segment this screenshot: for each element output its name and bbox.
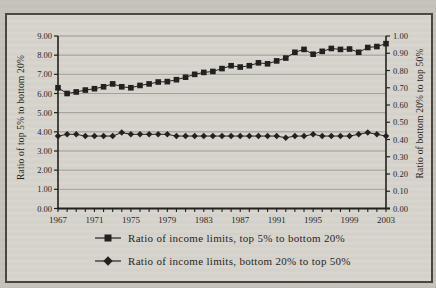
- data-point-diamond: [319, 133, 326, 140]
- data-point-diamond: [264, 133, 271, 140]
- data-point-square: [146, 81, 152, 87]
- right-axis-tick-label: 0.60: [393, 100, 408, 110]
- data-point-diamond: [191, 133, 198, 140]
- x-axis-tick-label: 2003: [377, 215, 396, 225]
- data-point-diamond: [292, 133, 299, 140]
- data-point-square: [329, 46, 335, 52]
- x-axis-tick-label: 1991: [268, 215, 286, 225]
- left-axis-tick-label: 1.00: [37, 184, 52, 194]
- right-axis-title: Ratio of bottom 20% to top 50%: [414, 29, 427, 199]
- data-point-diamond: [228, 133, 235, 140]
- right-axis-tick-label: 0.90: [393, 48, 408, 58]
- data-point-square: [137, 83, 143, 89]
- legend-label: Ratio of income limits, bottom 20% to to…: [128, 255, 351, 267]
- chart-frame: 9.008.007.006.005.004.003.002.001.000.00…: [5, 13, 433, 283]
- data-point-square: [228, 63, 234, 69]
- data-point-square: [219, 66, 225, 72]
- data-point-square: [247, 63, 253, 69]
- data-point-diamond: [237, 133, 244, 140]
- left-axis-tick-label: 2.00: [37, 165, 52, 175]
- data-point-diamond: [91, 133, 98, 140]
- data-point-square: [92, 86, 98, 92]
- x-axis-tick-label: 1971: [85, 215, 103, 225]
- data-point-square: [283, 55, 289, 61]
- data-point-diamond: [173, 133, 180, 140]
- data-point-square: [192, 72, 198, 78]
- x-axis-tick-label: 1999: [341, 215, 360, 225]
- data-point-diamond: [301, 133, 308, 140]
- legend-label: Ratio of income limits, top 5% to bottom…: [128, 232, 345, 244]
- data-point-square: [119, 84, 125, 90]
- data-point-square: [310, 51, 316, 57]
- data-point-diamond: [346, 133, 353, 140]
- data-point-diamond: [182, 133, 189, 140]
- x-axis-tick-label: 1995: [304, 215, 323, 225]
- data-point-square: [64, 91, 70, 97]
- left-axis-tick-label: 9.00: [37, 31, 52, 41]
- data-point-diamond: [337, 133, 344, 140]
- data-point-square: [174, 77, 180, 83]
- left-axis-tick-label: 6.00: [37, 89, 52, 99]
- data-point-square: [356, 49, 362, 55]
- data-point-square: [165, 79, 171, 85]
- data-point-square: [338, 47, 344, 53]
- data-point-diamond: [365, 129, 372, 136]
- data-point-square: [110, 81, 116, 87]
- data-point-diamond: [328, 133, 335, 140]
- x-axis-tick-label: 1975: [122, 215, 141, 225]
- data-point-square: [101, 84, 107, 90]
- right-axis-tick-label: 0.70: [393, 83, 408, 93]
- right-axis-tick-label: 0.30: [393, 152, 408, 162]
- data-point-square: [265, 61, 271, 67]
- data-point-square: [347, 46, 353, 52]
- data-point-diamond: [273, 133, 280, 140]
- x-axis-tick-label: 1983: [195, 215, 214, 225]
- data-point-square: [183, 74, 189, 80]
- right-axis-tick-label: 0.50: [393, 117, 408, 127]
- data-point-diamond: [246, 133, 253, 140]
- right-axis-tick-label: 0.80: [393, 66, 408, 76]
- right-axis-tick-label: 0.00: [393, 204, 408, 214]
- data-point-square: [274, 58, 280, 64]
- left-axis-tick-label: 3.00: [37, 146, 52, 156]
- data-point-square: [292, 49, 298, 55]
- right-axis-tick-label: 0.40: [393, 135, 408, 145]
- legend-item-top5-bottom20: Ratio of income limits, top 5% to bottom…: [95, 229, 425, 246]
- left-axis-tick-label: 4.00: [37, 127, 52, 137]
- right-axis-tick-label: 0.20: [393, 169, 408, 179]
- data-point-diamond: [210, 133, 217, 140]
- data-point-diamond: [119, 129, 126, 136]
- data-point-square: [365, 45, 371, 51]
- data-point-diamond: [55, 133, 62, 140]
- left-axis-tick-label: 8.00: [37, 50, 52, 60]
- data-point-square: [83, 87, 89, 93]
- data-point-square: [201, 70, 207, 76]
- data-point-square: [383, 41, 389, 47]
- data-point-diamond: [109, 133, 116, 140]
- data-point-diamond: [201, 133, 208, 140]
- legend: Ratio of income limits, top 5% to bottom…: [95, 229, 425, 275]
- data-point-square: [155, 79, 161, 85]
- data-point-square: [319, 49, 325, 55]
- left-axis-tick-label: 0.00: [37, 204, 52, 214]
- data-point-diamond: [219, 133, 226, 140]
- data-point-square: [237, 64, 243, 70]
- left-axis-tick-label: 7.00: [37, 69, 52, 79]
- data-point-square: [128, 85, 134, 91]
- data-point-diamond: [283, 135, 290, 142]
- left-axis-title: Ratio of top 5% to bottom 20%: [15, 33, 28, 203]
- square-series-legend-marker-icon: [95, 232, 121, 244]
- data-point-diamond: [255, 133, 262, 140]
- data-point-diamond: [100, 133, 107, 140]
- data-point-square: [374, 44, 380, 50]
- scanned-page: { "figure": { "background_color": "#c6c3…: [0, 0, 436, 288]
- x-axis-tick-label: 1979: [158, 215, 177, 225]
- left-axis-tick-label: 5.00: [37, 108, 52, 118]
- data-point-square: [256, 60, 262, 66]
- right-axis-tick-label: 1.00: [393, 31, 408, 41]
- data-point-square: [210, 69, 216, 75]
- x-axis-tick-label: 1987: [231, 215, 250, 225]
- data-point-square: [73, 89, 79, 95]
- data-point-square: [55, 85, 61, 91]
- data-point-diamond: [82, 133, 89, 140]
